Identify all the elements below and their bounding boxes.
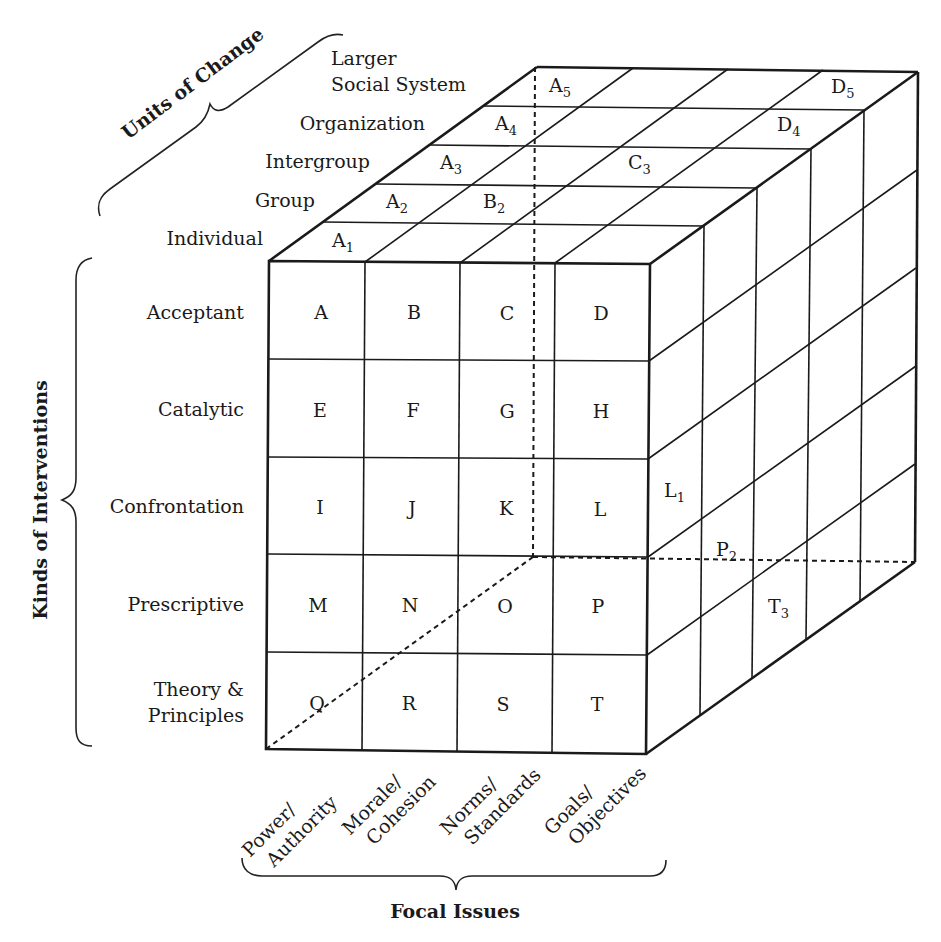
cell-p: P [592,595,605,617]
cell-m: M [308,594,327,616]
level-group: Group [255,189,315,211]
focal-issue-goals-objectives: Goals/ Objectives [539,745,650,856]
cell-i: I [316,496,324,518]
level-theory: Theory & [154,678,244,700]
units-of-change-title: Units of Change [117,22,267,143]
cell-a5: A5 [548,74,571,100]
focal-issues-axis: Power/ Authority Morale/ Cohesion Norms/… [237,745,666,922]
cell-t: T [591,693,604,715]
level-catalytic: Catalytic [158,398,244,420]
cell-t3: T3 [768,595,789,621]
focal-issues-brace [242,858,666,890]
cell-b: B [407,301,421,323]
cell-r: R [402,692,417,714]
cell-a: A [313,301,328,323]
cell-e: E [313,399,327,421]
cell-q: Q [309,692,325,714]
kinds-of-interventions-axis: Acceptant Catalytic Confrontation Prescr… [29,258,244,746]
cell-d5: D5 [831,75,855,101]
level-social-system: Social System [331,73,466,95]
kinds-of-interventions-title: Kinds of Interventions [29,380,51,619]
cell-a2: A2 [385,190,408,216]
focal-issues-title: Focal Issues [390,900,520,922]
cell-o: O [497,595,513,617]
level-confrontation: Confrontation [110,495,244,517]
cell-k: K [499,497,514,519]
cell-a4: A4 [494,112,517,138]
level-principles: Principles [148,704,244,726]
focal-issue-power-authority: Power/ Authority [237,774,341,878]
right-face [646,72,918,754]
focal-issue-norms-standards: Norms/ Standards [435,746,544,855]
cell-a3: A3 [439,151,462,177]
cell-f: F [406,399,419,421]
level-individual: Individual [166,227,263,249]
cell-l1: L1 [664,479,685,505]
cell-j: J [406,497,416,519]
cell-s: S [496,693,509,715]
cell-a1: A1 [331,229,354,255]
consultation-cube-diagram: A B C D E F G H I J K L M N O P Q R S T … [0,0,941,942]
cell-d4: D4 [777,113,801,139]
kinds-of-interventions-brace [62,258,92,746]
level-organization: Organization [300,112,425,134]
cell-b2: B2 [483,190,505,216]
cell-c: C [500,302,515,324]
cell-l: L [594,498,607,520]
cell-h: H [593,400,610,422]
cell-d: D [593,302,608,324]
top-cell-labels: A1 A2 B2 A3 C3 A4 D4 A5 D5 [331,74,855,255]
cell-n: N [402,594,419,616]
level-larger: Larger [331,47,397,69]
cell-c3: C3 [628,151,651,177]
units-of-change-axis: Individual Group Intergroup Organization… [98,22,466,249]
cell-g: G [499,400,514,422]
level-prescriptive: Prescriptive [127,593,244,615]
level-intergroup: Intergroup [265,150,370,172]
focal-issue-morale-cohesion: Morale/ Cohesion [337,753,440,856]
level-acceptant: Acceptant [146,301,245,323]
